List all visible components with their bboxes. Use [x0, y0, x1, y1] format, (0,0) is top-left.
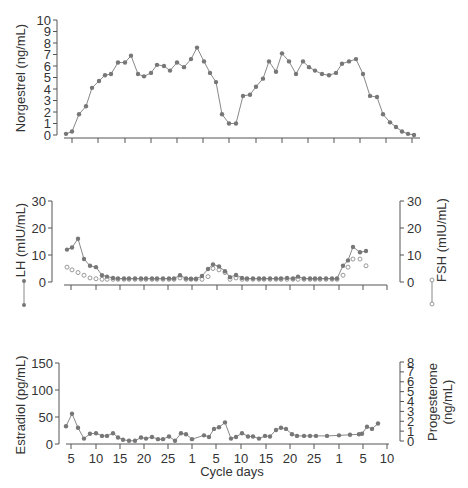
y-tick-label: 10	[32, 248, 46, 263]
progesterone-axis-title-line2: (ng/mL)	[440, 380, 455, 425]
data-point	[291, 276, 295, 280]
data-point	[155, 63, 159, 67]
data-point	[375, 95, 379, 99]
data-point	[263, 434, 267, 438]
data-point	[88, 432, 92, 436]
data-point	[202, 433, 206, 437]
data-point	[370, 427, 374, 431]
data-point	[302, 434, 306, 438]
data-point	[155, 276, 159, 280]
data-point	[220, 112, 224, 116]
x-tick-label: 20	[137, 451, 151, 466]
data-point	[94, 431, 98, 435]
data-point	[65, 247, 69, 251]
data-point	[294, 72, 298, 76]
data-point	[116, 276, 120, 280]
data-point	[229, 436, 233, 440]
data-point	[70, 129, 74, 133]
data-point	[364, 249, 368, 253]
data-point	[318, 276, 322, 280]
data-point	[211, 267, 215, 271]
data-point	[325, 434, 329, 438]
data-point	[184, 432, 188, 436]
top-x-ticks	[72, 138, 412, 143]
data-point	[364, 264, 368, 268]
top-y-ticks: 012345678910	[37, 13, 57, 143]
data-point	[168, 68, 172, 72]
data-point	[70, 268, 74, 272]
data-point	[123, 60, 127, 64]
data-point	[347, 59, 351, 63]
data-point	[190, 437, 194, 441]
data-point	[308, 434, 312, 438]
data-point	[261, 76, 265, 80]
data-point	[267, 59, 271, 63]
data-point	[295, 434, 299, 438]
data-point	[358, 257, 362, 261]
data-point	[94, 277, 98, 281]
mid-x-ticks	[71, 285, 387, 290]
data-point	[133, 276, 137, 280]
data-point	[234, 435, 238, 439]
lh-legend-symbol	[22, 279, 26, 307]
data-point	[64, 132, 68, 136]
data-point	[127, 276, 131, 280]
data-point	[354, 57, 358, 61]
data-point	[179, 431, 183, 435]
y-tick-label: 30	[407, 194, 421, 209]
data-point	[254, 85, 258, 89]
data-point	[234, 273, 238, 277]
y-tick-label: 0	[46, 437, 53, 452]
data-point	[116, 435, 120, 439]
data-point	[346, 265, 350, 269]
data-point	[100, 434, 104, 438]
data-point	[173, 439, 177, 443]
data-point	[105, 434, 109, 438]
lh-fsh-panel: 0102030 0102030 LH (mIU/mL) FSH (mIU/mL)	[13, 194, 449, 308]
data-point	[212, 427, 216, 431]
y-tick-label: 20	[32, 221, 46, 236]
data-point	[346, 258, 350, 262]
data-point	[358, 250, 362, 254]
data-point	[105, 274, 109, 278]
data-point	[262, 276, 266, 280]
data-point	[150, 276, 154, 280]
series-line	[66, 414, 378, 441]
fsh-axis-title: FSH (mIU/mL)	[434, 198, 449, 282]
data-point	[320, 72, 324, 76]
data-point	[156, 437, 160, 441]
data-point	[217, 264, 221, 268]
data-point	[189, 57, 193, 61]
series-line	[67, 239, 366, 279]
data-point	[248, 93, 252, 97]
x-tick-label: 15	[113, 451, 127, 466]
data-point	[136, 72, 140, 76]
mid-left-y-ticks: 0102030	[32, 194, 52, 290]
data-point	[334, 71, 338, 75]
data-point	[200, 274, 204, 278]
y-tick-label: 30	[32, 194, 46, 209]
data-point	[313, 276, 317, 280]
data-point	[82, 257, 86, 261]
data-point	[109, 72, 113, 76]
data-point	[223, 269, 227, 273]
data-point	[142, 74, 146, 78]
data-point	[412, 133, 416, 137]
data-point	[351, 257, 355, 261]
data-point	[351, 245, 355, 249]
data-point	[195, 45, 199, 49]
data-point	[184, 276, 188, 280]
data-point	[211, 262, 215, 266]
data-point	[206, 267, 210, 271]
data-point	[313, 68, 317, 72]
data-point	[175, 60, 179, 64]
hormone-chart-figure: 012345678910 Norgestrel (ng/mL) 0102030 …	[0, 0, 468, 488]
bot-left-y-ticks: 050100150	[31, 356, 59, 452]
x-tick-label: 20	[283, 451, 297, 466]
bot-x-ticks: 51015202515101520251510	[67, 444, 394, 466]
data-point	[274, 276, 278, 280]
data-point	[194, 277, 198, 281]
data-point	[64, 424, 68, 428]
data-point	[127, 439, 131, 443]
data-point	[167, 276, 171, 280]
